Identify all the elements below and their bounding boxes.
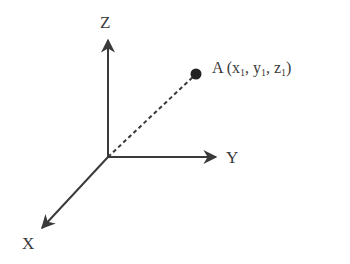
position-vector-dashed-line: [108, 74, 196, 157]
open-paren: (: [223, 59, 232, 76]
diagram-canvas: Z Y X A (x1, y1, z1): [0, 0, 350, 264]
separator-2: ,: [266, 59, 274, 76]
x-axis-label: X: [22, 235, 34, 252]
close-paren: ): [286, 59, 291, 76]
z-axis-label: Z: [100, 14, 110, 31]
separator-1: ,: [245, 59, 253, 76]
x-axis-arrow: [42, 157, 108, 228]
point-a-dot: [191, 69, 202, 80]
y-axis-label: Y: [226, 149, 238, 166]
coord-y: y: [253, 59, 261, 76]
coord-x: x: [232, 59, 240, 76]
axes-drawing: [0, 0, 350, 264]
point-a-label: A (x1, y1, z1): [212, 60, 291, 78]
point-name: A: [212, 59, 223, 76]
